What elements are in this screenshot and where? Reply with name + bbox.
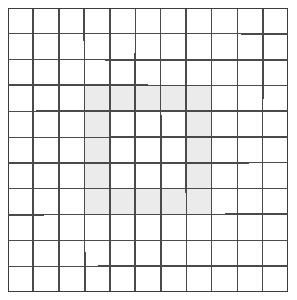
grid-cell[interactable] bbox=[263, 8, 288, 34]
grid-cell[interactable] bbox=[186, 137, 211, 163]
grid-cell[interactable] bbox=[8, 163, 33, 189]
grid-cell[interactable] bbox=[33, 85, 58, 111]
grid-cell[interactable] bbox=[212, 215, 237, 241]
grid-cell[interactable] bbox=[59, 85, 84, 111]
grid-cell[interactable] bbox=[59, 189, 84, 215]
grid-cell[interactable] bbox=[84, 137, 109, 163]
grid-cell[interactable] bbox=[161, 111, 186, 137]
grid-cell[interactable] bbox=[110, 60, 135, 86]
grid-cell[interactable] bbox=[8, 240, 33, 266]
grid-cell[interactable] bbox=[135, 189, 160, 215]
grid-cell[interactable] bbox=[161, 137, 186, 163]
grid-cell[interactable] bbox=[110, 8, 135, 34]
grid-cell[interactable] bbox=[186, 34, 211, 60]
grid-cell[interactable] bbox=[59, 34, 84, 60]
grid-cell[interactable] bbox=[33, 189, 58, 215]
grid-cell[interactable] bbox=[212, 163, 237, 189]
grid-cell[interactable] bbox=[263, 34, 288, 60]
grid-cell[interactable] bbox=[33, 266, 58, 292]
grid-cell[interactable] bbox=[59, 137, 84, 163]
grid-cell[interactable] bbox=[237, 215, 262, 241]
grid-cell[interactable] bbox=[110, 240, 135, 266]
grid-cell[interactable] bbox=[8, 34, 33, 60]
grid-cell[interactable] bbox=[161, 60, 186, 86]
grid-cell[interactable] bbox=[8, 189, 33, 215]
grid-cell[interactable] bbox=[84, 111, 109, 137]
grid-cell[interactable] bbox=[8, 85, 33, 111]
grid-cell[interactable] bbox=[237, 8, 262, 34]
grid-cell[interactable] bbox=[263, 215, 288, 241]
grid-cell[interactable] bbox=[84, 8, 109, 34]
grid-cell[interactable] bbox=[237, 163, 262, 189]
grid-cell[interactable] bbox=[237, 60, 262, 86]
grid-cell[interactable] bbox=[84, 163, 109, 189]
grid-cell[interactable] bbox=[59, 266, 84, 292]
grid-cell[interactable] bbox=[110, 111, 135, 137]
grid-cell[interactable] bbox=[33, 34, 58, 60]
grid-cell[interactable] bbox=[84, 240, 109, 266]
grid-cell[interactable] bbox=[237, 137, 262, 163]
grid-cell[interactable] bbox=[263, 137, 288, 163]
grid-cell[interactable] bbox=[212, 189, 237, 215]
grid-cell[interactable] bbox=[263, 60, 288, 86]
grid-cell[interactable] bbox=[186, 240, 211, 266]
grid-cell[interactable] bbox=[237, 34, 262, 60]
grid-cell[interactable] bbox=[33, 137, 58, 163]
grid-cell[interactable] bbox=[161, 189, 186, 215]
grid-cell[interactable] bbox=[84, 60, 109, 86]
grid-cell[interactable] bbox=[186, 8, 211, 34]
grid-cell[interactable] bbox=[237, 189, 262, 215]
grid-cell[interactable] bbox=[135, 137, 160, 163]
grid-cell[interactable] bbox=[161, 240, 186, 266]
grid-cell[interactable] bbox=[237, 266, 262, 292]
grid-cell[interactable] bbox=[59, 215, 84, 241]
grid-cell[interactable] bbox=[135, 85, 160, 111]
grid-cell[interactable] bbox=[110, 266, 135, 292]
grid-cell[interactable] bbox=[263, 111, 288, 137]
grid-cell[interactable] bbox=[135, 163, 160, 189]
grid-cell[interactable] bbox=[110, 85, 135, 111]
grid-cell[interactable] bbox=[135, 266, 160, 292]
grid-cell[interactable] bbox=[59, 163, 84, 189]
grid-cell[interactable] bbox=[161, 34, 186, 60]
grid-cell[interactable] bbox=[135, 34, 160, 60]
grid-cell[interactable] bbox=[186, 215, 211, 241]
grid-cell[interactable] bbox=[110, 215, 135, 241]
grid-cell[interactable] bbox=[135, 215, 160, 241]
grid-cell[interactable] bbox=[186, 163, 211, 189]
grid-cell[interactable] bbox=[186, 111, 211, 137]
grid-cell[interactable] bbox=[135, 60, 160, 86]
grid-cell[interactable] bbox=[33, 111, 58, 137]
grid-cell[interactable] bbox=[8, 266, 33, 292]
grid-cell[interactable] bbox=[33, 215, 58, 241]
grid-cell[interactable] bbox=[237, 85, 262, 111]
grid-cell[interactable] bbox=[212, 137, 237, 163]
grid-cell[interactable] bbox=[263, 85, 288, 111]
grid-cell[interactable] bbox=[8, 60, 33, 86]
grid-cell[interactable] bbox=[84, 85, 109, 111]
grid-cell[interactable] bbox=[8, 8, 33, 34]
grid-cell[interactable] bbox=[33, 240, 58, 266]
grid-cell[interactable] bbox=[263, 189, 288, 215]
grid-cell[interactable] bbox=[8, 215, 33, 241]
grid-cell[interactable] bbox=[212, 85, 237, 111]
grid-cell[interactable] bbox=[263, 266, 288, 292]
grid-cell[interactable] bbox=[237, 240, 262, 266]
grid-cell[interactable] bbox=[110, 189, 135, 215]
grid-cell[interactable] bbox=[59, 8, 84, 34]
grid-cell[interactable] bbox=[84, 34, 109, 60]
grid-cell[interactable] bbox=[8, 137, 33, 163]
grid-cell[interactable] bbox=[84, 189, 109, 215]
grid-cell[interactable] bbox=[8, 111, 33, 137]
grid-cell[interactable] bbox=[186, 85, 211, 111]
grid-cell[interactable] bbox=[161, 215, 186, 241]
grid-cell[interactable] bbox=[212, 240, 237, 266]
grid-cell[interactable] bbox=[33, 163, 58, 189]
grid-cell[interactable] bbox=[84, 266, 109, 292]
grid-cell[interactable] bbox=[161, 163, 186, 189]
grid-cell[interactable] bbox=[59, 240, 84, 266]
grid-cell[interactable] bbox=[59, 111, 84, 137]
grid-cell[interactable] bbox=[84, 215, 109, 241]
grid-cell[interactable] bbox=[59, 60, 84, 86]
grid-cell[interactable] bbox=[33, 60, 58, 86]
